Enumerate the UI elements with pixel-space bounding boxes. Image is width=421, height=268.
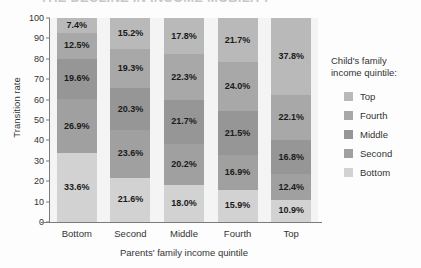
bar-segment-label: 15.9%	[225, 201, 251, 210]
bar-segment-label: 24.0%	[225, 82, 251, 91]
y-axis-tick-label: 60	[20, 95, 44, 104]
bar-segment[interactable]: 20.2%	[164, 144, 204, 185]
bar-segment-label: 12.4%	[278, 183, 304, 192]
y-axis-ticks: 0102030405060708090100	[22, 18, 50, 223]
bar-segment[interactable]: 7.4%	[57, 18, 97, 33]
bar-top[interactable]: 37.8%22.1%16.8%12.4%10.9%	[271, 18, 311, 222]
legend-item-bottom[interactable]: Bottom	[331, 163, 421, 182]
legend-swatch-icon	[344, 92, 353, 101]
y-axis-tick-label: 70	[20, 75, 44, 84]
legend-item-middle[interactable]: Middle	[331, 125, 421, 144]
legend-item-label: Middle	[360, 130, 388, 140]
bar-segment[interactable]: 12.5%	[57, 33, 97, 59]
stacked-bar-chart: Transition rate 0102030405060708090100 7…	[0, 0, 421, 268]
legend-item-top[interactable]: Top	[331, 87, 421, 106]
y-axis-tick-label: 20	[20, 177, 44, 186]
bar-segment-label: 26.9%	[64, 122, 90, 131]
bar-segment[interactable]: 16.9%	[218, 155, 258, 189]
bar-segment-label: 22.1%	[278, 113, 304, 122]
legend-items: TopFourthMiddleSecondBottom	[331, 87, 421, 182]
bar-segment[interactable]: 19.3%	[110, 49, 150, 88]
bar-segment-label: 12.5%	[64, 41, 90, 50]
bar-segment[interactable]: 16.8%	[271, 140, 311, 174]
bar-segment-label: 20.3%	[118, 105, 144, 114]
bar-segment[interactable]: 37.8%	[271, 18, 311, 95]
bar-segment-label: 33.6%	[64, 183, 90, 192]
bar-middle[interactable]: 17.8%22.3%21.7%20.2%18.0%	[164, 18, 204, 222]
bar-segment[interactable]: 22.3%	[164, 54, 204, 99]
bar-segment[interactable]: 22.1%	[271, 95, 311, 140]
x-axis-tick-label: Bottom	[47, 228, 107, 239]
legend-item-label: Top	[360, 92, 375, 102]
bar-segment[interactable]: 21.6%	[110, 178, 150, 222]
bar-second[interactable]: 15.2%19.3%20.3%23.6%21.6%	[110, 18, 150, 222]
bar-segment[interactable]: 10.9%	[271, 200, 311, 222]
bar-segment-label: 7.4%	[67, 21, 88, 30]
legend-swatch-icon	[344, 130, 353, 139]
y-axis-tick-label: 10	[20, 197, 44, 206]
legend: Child's family income quintile: TopFourt…	[331, 55, 421, 182]
y-axis-tick-label: 100	[20, 14, 44, 23]
x-axis-tick-labels: BottomSecondMiddleFourthTop	[50, 228, 318, 242]
bar-segment-label: 19.3%	[118, 64, 144, 73]
legend-item-label: Bottom	[360, 168, 390, 178]
legend-swatch-icon	[344, 168, 353, 177]
bar-segment-label: 18.0%	[171, 199, 197, 208]
bar-segment[interactable]: 15.2%	[110, 18, 150, 49]
bar-fourth[interactable]: 21.7%24.0%21.5%16.9%15.9%	[218, 18, 258, 222]
legend-swatch-icon	[344, 149, 353, 158]
bar-segment-label: 22.3%	[171, 73, 197, 82]
bar-segment[interactable]: 21.7%	[218, 18, 258, 62]
y-axis-tick-label: 30	[20, 156, 44, 165]
legend-item-fourth[interactable]: Fourth	[331, 106, 421, 125]
bar-segment[interactable]: 20.3%	[110, 88, 150, 129]
x-axis-tick-label: Middle	[154, 228, 214, 239]
legend-item-second[interactable]: Second	[331, 144, 421, 163]
bar-segment[interactable]: 26.9%	[57, 99, 97, 154]
legend-title: Child's family income quintile:	[331, 55, 415, 79]
x-axis-tick-label: Top	[261, 228, 321, 239]
plot-area: 7.4%12.5%19.6%26.9%33.6%15.2%19.3%20.3%2…	[50, 18, 318, 222]
y-axis-tick-label: 90	[20, 34, 44, 43]
legend-item-label: Second	[360, 149, 392, 159]
x-axis-tick-label: Second	[100, 228, 160, 239]
x-axis-title: Parents' family income quintile	[50, 247, 318, 258]
bar-segment-label: 16.8%	[278, 153, 304, 162]
bar-segment[interactable]: 15.9%	[218, 190, 258, 222]
bar-segment-label: 17.8%	[171, 32, 197, 41]
bar-segment-label: 19.6%	[64, 74, 90, 83]
y-axis-tick-label: 80	[20, 54, 44, 63]
legend-swatch-icon	[344, 111, 353, 120]
bar-segment-label: 20.2%	[171, 160, 197, 169]
bar-segment-label: 21.7%	[225, 36, 251, 45]
bar-segment[interactable]: 19.6%	[57, 59, 97, 99]
bar-segment-label: 23.6%	[118, 149, 144, 158]
y-axis-tick-label: 50	[20, 116, 44, 125]
bar-segment-label: 21.6%	[118, 195, 144, 204]
bar-segment-label: 16.9%	[225, 168, 251, 177]
bar-segment-label: 37.8%	[278, 52, 304, 61]
legend-item-label: Fourth	[360, 111, 387, 121]
bar-segment[interactable]: 12.4%	[271, 174, 311, 199]
bar-segment-label: 21.5%	[225, 129, 251, 138]
x-axis-tick-label: Fourth	[208, 228, 268, 239]
y-axis-tick-label: 40	[20, 136, 44, 145]
bar-segment-label: 10.9%	[278, 206, 304, 215]
bar-segment[interactable]: 17.8%	[164, 18, 204, 54]
bar-bottom[interactable]: 7.4%12.5%19.6%26.9%33.6%	[57, 18, 97, 222]
bar-segment[interactable]: 24.0%	[218, 62, 258, 111]
bar-segment[interactable]: 18.0%	[164, 185, 204, 222]
bar-segment-label: 15.2%	[118, 29, 144, 38]
x-axis-line	[41, 222, 322, 223]
bar-segment[interactable]: 21.5%	[218, 111, 258, 155]
bar-segment-label: 21.7%	[171, 117, 197, 126]
bar-segment[interactable]: 21.7%	[164, 100, 204, 144]
bar-segment[interactable]: 23.6%	[110, 130, 150, 178]
bar-segment[interactable]: 33.6%	[57, 153, 97, 222]
